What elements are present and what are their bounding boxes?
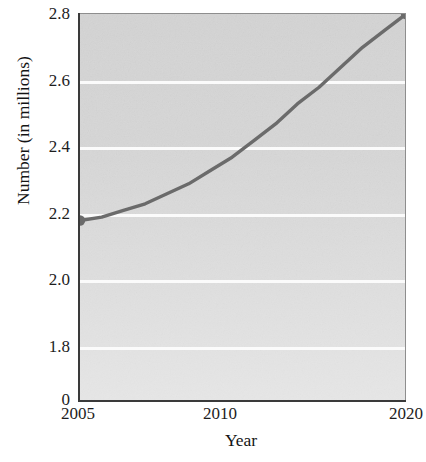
x-axis-title: Year [78, 430, 404, 451]
series-line-polyline [80, 14, 406, 220]
y-tick-label-2-6: 2.6 [0, 71, 70, 91]
chart-figure: 2.8 2.6 2.4 2.2 2.0 1.8 0 Number (in mil… [0, 0, 426, 462]
y-tick-label-2-4: 2.4 [0, 137, 70, 157]
y-tick-label-1-8: 1.8 [0, 337, 70, 357]
start-point-marker [78, 215, 85, 225]
plot-area [78, 13, 406, 402]
data-curve [80, 13, 406, 400]
y-tick-label-2-8: 2.8 [0, 4, 70, 24]
y-tick-label-2-0: 2.0 [0, 270, 70, 290]
x-tick-label-2020: 2020 [371, 404, 426, 424]
x-tick-label-2005: 2005 [43, 404, 113, 424]
x-tick-label-2010: 2010 [185, 404, 255, 424]
y-tick-label-2-2: 2.2 [0, 204, 70, 224]
y-axis-title: Number (in millions) [13, 26, 34, 236]
